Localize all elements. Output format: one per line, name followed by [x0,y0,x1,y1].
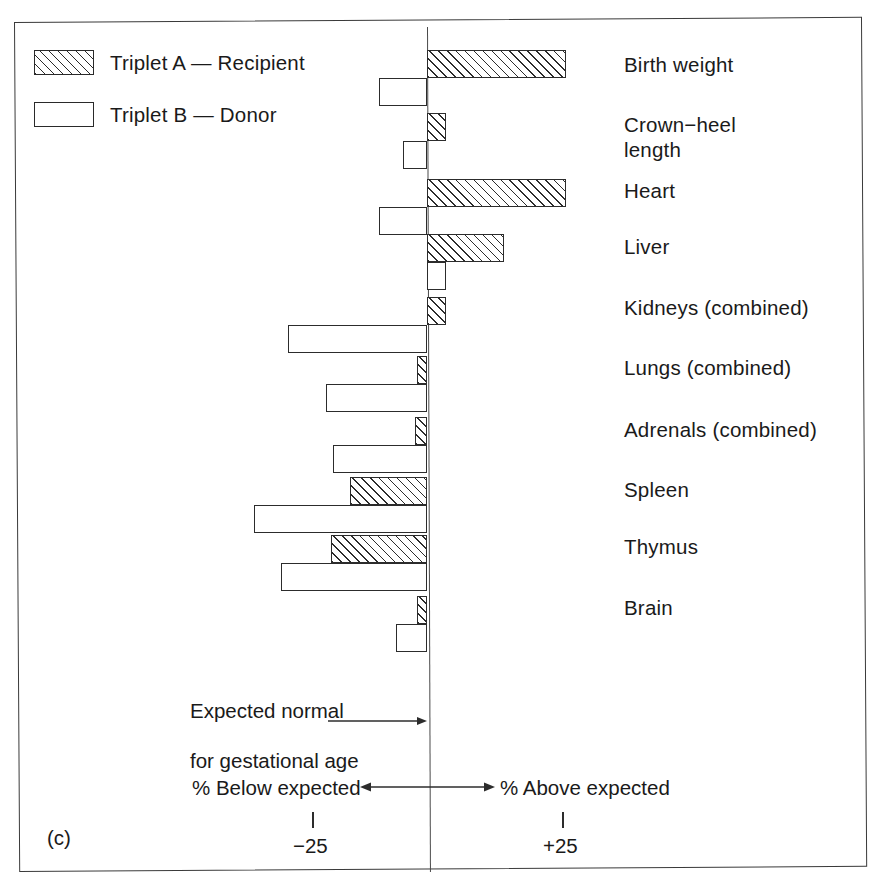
tick-negative-25 [312,812,314,828]
category-label: Crown−heel length [624,112,736,162]
legend-swatch-triplet-b [34,102,94,127]
bar-triplet-b [288,325,427,353]
bar-triplet-b [254,505,427,533]
legend-label-triplet-a: Triplet A — Recipient [110,51,305,75]
legend-label-triplet-b: Triplet B — Donor [110,103,277,127]
bar-triplet-a [427,234,504,262]
expected-normal-line1: Expected normal [190,699,344,722]
category-label: Brain [624,595,673,620]
below-expected-label: % Below expected [192,776,361,800]
bar-triplet-a [417,596,427,624]
tick-label-negative-25: −25 [293,834,328,858]
bar-triplet-a [427,113,446,141]
expected-normal-line2: for gestational age [190,749,359,772]
bar-triplet-b [333,445,427,473]
chart-legend: Triplet A — Recipient Triplet B — Donor [34,50,305,154]
bar-triplet-a [415,417,427,445]
range-double-arrow-icon [360,779,495,795]
bar-triplet-a [417,356,427,384]
bar-triplet-a [350,477,427,505]
category-label: Birth weight [624,52,734,77]
category-label: Adrenals (combined) [624,417,817,442]
legend-item-triplet-b: Triplet B — Donor [34,102,305,127]
category-label: Kidneys (combined) [624,295,809,320]
zero-reference-axis [427,27,431,872]
expected-normal-arrow-icon [328,716,427,726]
category-label: Lungs (combined) [624,355,791,380]
bar-triplet-a [427,50,566,78]
legend-swatch-triplet-a [34,50,94,75]
bar-triplet-b [379,207,427,235]
bar-triplet-a [331,535,427,563]
tick-positive-25 [562,812,564,828]
bar-triplet-a [427,179,566,207]
panel-letter-label: (c) [47,826,71,850]
legend-item-triplet-a: Triplet A — Recipient [34,50,305,75]
category-label: Spleen [624,477,689,502]
above-expected-label: % Above expected [500,776,670,800]
bar-triplet-b [379,78,427,106]
category-label: Heart [624,178,675,203]
bar-triplet-b [403,141,427,169]
category-label: Thymus [624,534,698,559]
bar-triplet-a [427,297,446,325]
bar-triplet-b [396,624,427,652]
bar-triplet-b [281,563,427,591]
tick-label-positive-25: +25 [543,834,578,858]
chart-plot-area: Triplet A — Recipient Triplet B — Donor … [0,0,881,891]
bar-triplet-b [326,384,427,412]
bar-triplet-b [427,262,446,290]
category-label: Liver [624,234,669,259]
